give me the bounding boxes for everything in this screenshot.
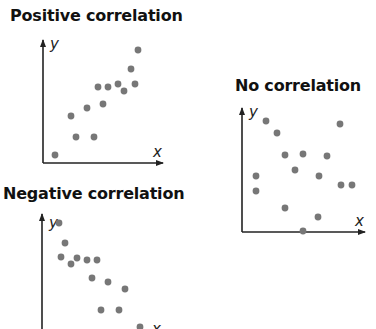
data-point: [300, 228, 307, 235]
data-point: [94, 257, 101, 264]
data-point: [115, 81, 122, 88]
positive-y-label: y: [49, 35, 60, 53]
data-point: [263, 118, 270, 125]
data-point: [315, 214, 322, 221]
data-point: [128, 66, 135, 73]
data-point: [73, 134, 80, 141]
data-point: [338, 182, 345, 189]
data-point: [337, 121, 344, 128]
data-point: [89, 275, 96, 282]
positive-x-label: x: [152, 143, 162, 161]
data-point: [121, 88, 128, 95]
data-point: [68, 113, 75, 120]
data-point: [132, 81, 139, 88]
data-point: [58, 254, 65, 261]
data-point: [324, 153, 331, 160]
data-point: [105, 279, 112, 286]
data-point: [274, 130, 281, 137]
data-point: [135, 47, 142, 54]
data-point: [91, 134, 98, 141]
data-point: [105, 84, 112, 91]
data-point: [316, 173, 323, 180]
data-point: [116, 307, 123, 314]
negative-data-points: [56, 220, 144, 329]
data-point: [282, 152, 289, 159]
data-point: [98, 307, 105, 314]
none-y-label: y: [248, 103, 259, 121]
data-point: [349, 182, 356, 189]
data-point: [137, 324, 144, 329]
data-point: [100, 101, 107, 108]
none-x-label: x: [354, 212, 364, 230]
data-point: [122, 286, 129, 293]
data-point: [62, 240, 69, 247]
positive-data-points: [52, 47, 142, 159]
data-point: [282, 205, 289, 212]
data-point: [52, 152, 59, 159]
data-point: [253, 173, 260, 180]
data-point: [84, 257, 91, 264]
data-point: [74, 255, 81, 262]
data-point: [292, 167, 299, 174]
data-point: [300, 151, 307, 158]
positive-correlation-plot: y x: [43, 35, 163, 163]
data-point: [68, 261, 75, 268]
scatter-plots-canvas: y x y x y x: [0, 0, 376, 329]
no-correlation-plot: y x: [242, 103, 365, 234]
negative-x-label: x: [151, 320, 161, 329]
no-correlation-data-points: [253, 118, 356, 235]
data-point: [84, 105, 91, 112]
data-point: [253, 188, 260, 195]
data-point: [56, 220, 63, 227]
negative-correlation-plot: y x: [42, 214, 165, 329]
data-point: [95, 84, 102, 91]
